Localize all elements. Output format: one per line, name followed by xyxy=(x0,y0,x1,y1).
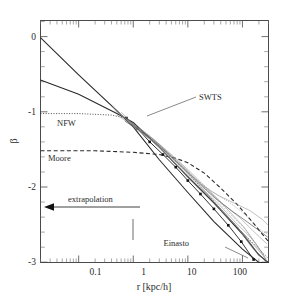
data-point-marker xyxy=(199,193,202,196)
series-Einasto xyxy=(41,38,269,263)
data-point-marker xyxy=(174,166,177,169)
series-halo-10 xyxy=(123,117,268,263)
series-halo-3 xyxy=(125,121,267,262)
annotation-swts: SWTS xyxy=(199,92,222,102)
data-point-marker xyxy=(240,240,243,243)
annotation-nfw: NFW xyxy=(57,118,76,128)
xtick-label-2: 10 xyxy=(187,267,197,277)
ytick-label-2: -2 xyxy=(28,182,36,192)
density-slope-plot: 0 -1 -2 -3 0.1 1 10 100 r [kpc/h] β SWTS… xyxy=(0,0,287,298)
annotation-extrapolation: extrapolation xyxy=(68,194,114,204)
data-point-marker xyxy=(162,153,165,156)
data-point-marker xyxy=(187,179,190,182)
data-point-marker xyxy=(148,141,151,144)
arrow-head-icon xyxy=(44,203,54,211)
ytick-label-3: -3 xyxy=(28,257,36,267)
annotation-einasto: Einasto xyxy=(164,238,190,248)
xtick-label-1: 1 xyxy=(141,267,146,277)
ytick-label-0: 0 xyxy=(31,32,36,42)
data-curves xyxy=(41,38,269,263)
series-NFW xyxy=(41,114,269,259)
figure-container: 0 -1 -2 -3 0.1 1 10 100 r [kpc/h] β SWTS… xyxy=(0,0,287,298)
xtick-label-0: 0.1 xyxy=(90,267,102,277)
data-point-marker xyxy=(227,224,230,227)
y-axis-label: β xyxy=(8,138,19,143)
x-axis-label: r [kpc/h] xyxy=(137,281,172,292)
xtick-label-3: 100 xyxy=(233,267,248,277)
series-simulation-mean xyxy=(126,118,253,259)
extrapolation-arrow xyxy=(44,203,140,211)
data-point-marker xyxy=(252,258,255,261)
einasto-leader-line xyxy=(225,247,248,258)
ytick-label-1: -1 xyxy=(28,107,36,117)
swts-leader-line xyxy=(147,97,196,116)
series-SWTS xyxy=(41,80,269,262)
annotation-moore: Moore xyxy=(48,153,71,163)
data-point-marker xyxy=(213,208,216,211)
